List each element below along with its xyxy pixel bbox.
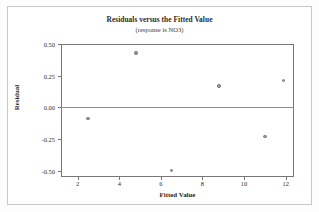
y-tick-mark	[58, 44, 61, 45]
chart-title: Residuals versus the Fitted Value	[0, 15, 319, 24]
x-tick-label: 8	[192, 180, 212, 187]
y-tick-mark	[58, 139, 61, 140]
x-tick-mark	[161, 177, 162, 180]
x-tick-mark	[286, 177, 287, 180]
data-point	[134, 51, 137, 54]
x-tick-label: 4	[109, 180, 129, 187]
x-tick-label: 10	[234, 180, 254, 187]
residual-plot-figure: Residuals versus the Fitted Value (respo…	[0, 0, 319, 212]
y-tick-label: -0.25	[29, 136, 55, 143]
y-tick-label: 0.00	[29, 104, 55, 111]
y-tick-label: 0.50	[29, 41, 55, 48]
y-tick-mark	[58, 76, 61, 77]
x-tick-mark	[78, 177, 79, 180]
data-point	[217, 84, 220, 87]
data-point	[263, 135, 266, 138]
x-tick-mark	[202, 177, 203, 180]
y-tick-label: -0.50	[29, 167, 55, 174]
y-axis-title: Residual	[13, 68, 20, 128]
x-axis-title: Fitted Value	[61, 191, 294, 198]
x-tick-mark	[244, 177, 245, 180]
chart-subtitle: (response is NO3)	[0, 25, 319, 34]
x-tick-mark	[119, 177, 120, 180]
x-tick-label: 12	[276, 180, 296, 187]
x-tick-label: 2	[68, 180, 88, 187]
y-tick-label: 0.25	[29, 72, 55, 79]
x-tick-label: 6	[151, 180, 171, 187]
y-tick-mark	[58, 107, 61, 108]
y-tick-mark	[58, 171, 61, 172]
zero-reference-line	[61, 107, 294, 108]
plot-area	[61, 44, 294, 177]
